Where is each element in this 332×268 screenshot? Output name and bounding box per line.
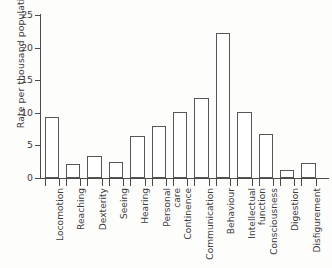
bar (87, 156, 102, 178)
x-axis-tick (123, 179, 124, 186)
x-axis-label: Continence (184, 188, 194, 240)
x-axis-label: Disfigurement (313, 188, 323, 252)
x-axis-label: Consciousness (270, 188, 280, 255)
x-axis-label: Communication (206, 188, 216, 260)
y-axis-tick (35, 113, 40, 114)
bar (66, 164, 81, 178)
y-axis-tick-label: 25 (7, 10, 33, 19)
x-axis-tick (130, 179, 131, 186)
x-axis-tick (216, 179, 217, 186)
x-axis-label: Intellectual function (248, 188, 267, 239)
bar (237, 112, 252, 179)
y-axis-tick (35, 178, 40, 179)
x-axis-tick (102, 179, 103, 186)
bar (130, 136, 145, 178)
x-axis-label: Hearing (141, 188, 151, 224)
x-axis-tick (187, 179, 188, 186)
x-axis-label: Behaviour (227, 188, 237, 234)
x-axis-label: Reaching (77, 188, 87, 230)
x-axis-tick (80, 179, 81, 186)
bar (173, 112, 188, 179)
bar (301, 163, 316, 178)
y-axis-tick-label: 5 (7, 140, 33, 149)
x-axis-tick (166, 179, 167, 186)
x-axis-label: Seeing (120, 188, 130, 219)
x-axis-tick (152, 179, 153, 186)
y-axis-tick (35, 80, 40, 81)
bar (109, 162, 124, 178)
x-axis-tick (259, 179, 260, 186)
bar (152, 126, 167, 178)
x-axis-tick (194, 179, 195, 186)
x-axis-tick (280, 179, 281, 186)
y-axis-tick (35, 48, 40, 49)
x-axis-tick (252, 179, 253, 186)
x-axis-tick (59, 179, 60, 186)
y-axis-tick-label: 0 (7, 173, 33, 182)
plot-area (41, 15, 328, 178)
x-axis-label: Locomotion (56, 188, 66, 241)
x-axis-label: Personal care (163, 188, 182, 227)
y-axis-tick-label: 15 (7, 75, 33, 84)
bar (45, 117, 60, 178)
x-axis-tick (294, 179, 295, 186)
x-axis-label: Digestion (291, 188, 301, 231)
x-axis-tick (209, 179, 210, 186)
x-axis-tick (230, 179, 231, 186)
y-axis-tick (35, 15, 40, 16)
x-axis-tick (87, 179, 88, 186)
y-axis-tick-label: 10 (7, 108, 33, 117)
x-axis-tick (273, 179, 274, 186)
x-axis-tick (66, 179, 67, 186)
x-axis-tick (109, 179, 110, 186)
y-axis-tick (35, 145, 40, 146)
bar (194, 98, 209, 178)
x-axis-tick (173, 179, 174, 186)
x-axis-tick (237, 179, 238, 186)
x-axis-line (40, 178, 329, 179)
x-axis-tick (301, 179, 302, 186)
x-axis-label: Dexterity (99, 188, 109, 230)
bar (259, 134, 274, 178)
bar (216, 33, 231, 178)
x-axis-tick (316, 179, 317, 186)
y-axis-tick-label: 20 (7, 43, 33, 52)
bar-chart: Rate per thousand population 0510152025 … (0, 0, 332, 268)
bar (280, 170, 295, 178)
x-axis-tick (145, 179, 146, 186)
x-axis-tick (45, 179, 46, 186)
